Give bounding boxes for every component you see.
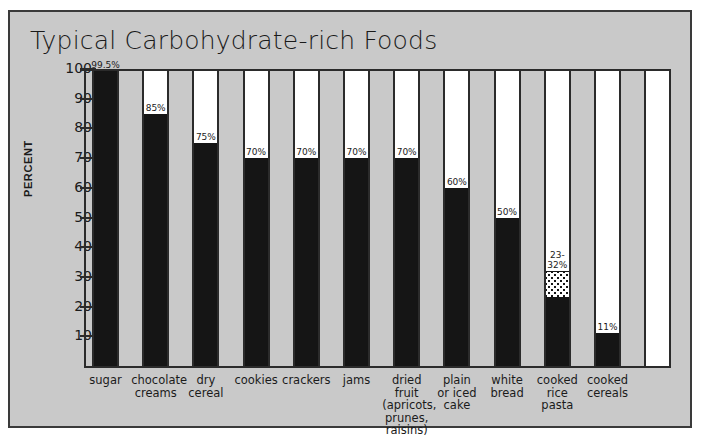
bar-column-empty[interactable] bbox=[644, 71, 671, 366]
category-label: cooked cereals bbox=[583, 374, 632, 399]
category-label: dry cereal bbox=[181, 374, 230, 399]
bar-solid-segment bbox=[546, 298, 569, 366]
bar-value-label: 99.5% bbox=[90, 60, 121, 70]
category-label: sugar bbox=[81, 374, 130, 387]
bar bbox=[94, 71, 117, 367]
bar-value-label: 60% bbox=[441, 177, 472, 187]
bar bbox=[245, 158, 268, 366]
bar-value-label: 11% bbox=[592, 322, 623, 332]
bar-column[interactable]: 23- 32% bbox=[544, 71, 571, 366]
bar-column[interactable]: 70% bbox=[393, 71, 420, 366]
category-label: chocolate creams bbox=[131, 374, 180, 399]
bar-column[interactable]: 75% bbox=[192, 71, 219, 366]
y-axis-title: PERCENT bbox=[22, 140, 34, 197]
category-label: cookies bbox=[232, 374, 281, 387]
plot-area: 99.5%85%75%70%70%70%70%60%50%23- 32%11% bbox=[84, 69, 678, 368]
bar-value-label: 50% bbox=[492, 207, 523, 217]
bar bbox=[194, 143, 217, 366]
bar-value-label: 70% bbox=[241, 147, 272, 157]
bar-column[interactable]: 70% bbox=[343, 71, 370, 366]
bar-column[interactable]: 50% bbox=[494, 71, 521, 366]
y-axis-spine bbox=[84, 69, 86, 368]
bar bbox=[496, 218, 519, 367]
category-label: cooked rice pasta bbox=[533, 374, 582, 412]
category-labels: sugarchocolate creamsdry cerealcookiescr… bbox=[84, 374, 684, 438]
bar-value-label: 70% bbox=[341, 147, 372, 157]
category-label: white bread bbox=[483, 374, 532, 399]
bar bbox=[395, 158, 418, 366]
plot-top-rule bbox=[84, 69, 671, 71]
bar bbox=[596, 333, 619, 366]
bar-value-label: 85% bbox=[140, 103, 171, 113]
bar-range-segment bbox=[546, 271, 569, 298]
bar-value-label: 70% bbox=[391, 147, 422, 157]
category-label: dried fruit (apricots, prunes, raisins) bbox=[382, 374, 431, 437]
bar bbox=[144, 114, 167, 366]
bar-column[interactable]: 70% bbox=[293, 71, 320, 366]
chart-figure: Typical Carbohydrate-rich Foods PERCENT … bbox=[0, 0, 702, 439]
bar-column[interactable]: 11% bbox=[594, 71, 621, 366]
bar-value-label: 70% bbox=[291, 147, 322, 157]
bar-column[interactable]: 99.5% bbox=[92, 71, 119, 366]
category-label: jams bbox=[332, 374, 381, 387]
bar-value-label: 75% bbox=[190, 132, 221, 142]
bar bbox=[345, 158, 368, 366]
bar-value-label: 23- 32% bbox=[542, 250, 573, 270]
x-axis-baseline bbox=[84, 366, 671, 368]
chart-panel: Typical Carbohydrate-rich Foods PERCENT … bbox=[8, 10, 692, 428]
category-label: crackers bbox=[282, 374, 331, 387]
category-label: plain or iced cake bbox=[432, 374, 481, 412]
bar bbox=[445, 188, 468, 366]
bar-column[interactable]: 60% bbox=[443, 71, 470, 366]
bar-column[interactable]: 85% bbox=[142, 71, 169, 366]
bar bbox=[295, 158, 318, 366]
bar-column[interactable]: 70% bbox=[243, 71, 270, 366]
